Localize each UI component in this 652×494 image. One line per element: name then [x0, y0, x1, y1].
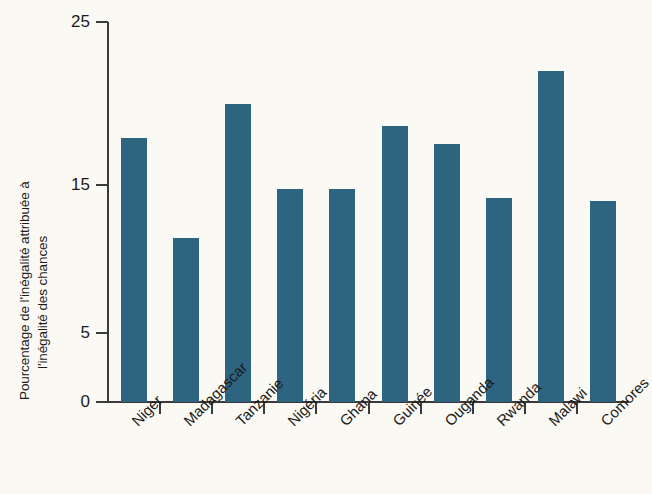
bar: [382, 126, 408, 402]
bar: [486, 198, 512, 402]
bar: [121, 138, 147, 402]
bar: [590, 201, 616, 402]
bar: [434, 144, 460, 402]
bar: [538, 71, 564, 402]
bar: [173, 238, 199, 402]
x-axis-labels: NigerMadagascarTanzanieNigériaGhanaGuiné…: [0, 403, 629, 494]
bar: [277, 189, 303, 402]
bars-container: [0, 0, 629, 403]
bar: [329, 189, 355, 402]
